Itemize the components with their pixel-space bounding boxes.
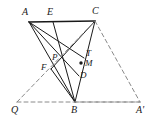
point-marker-M bbox=[79, 61, 82, 64]
vertex-label-a: A bbox=[22, 7, 28, 17]
segment-C-A-prime bbox=[95, 21, 140, 102]
vertex-label-q: Q bbox=[11, 105, 18, 115]
vertex-label-d: D bbox=[80, 71, 87, 80]
segment-A-C bbox=[29, 21, 95, 22]
vertex-label-b: B bbox=[71, 105, 77, 115]
geometry-figure: AECPTMFDQBA' bbox=[0, 0, 156, 135]
geometry-canvas bbox=[0, 0, 156, 135]
segments-layer bbox=[17, 21, 140, 102]
segment-E-B bbox=[53, 22, 75, 102]
vertex-label-a2: A' bbox=[136, 105, 144, 115]
vertex-label-m: M bbox=[85, 59, 93, 68]
vertex-label-e: E bbox=[47, 7, 53, 17]
vertex-label-p: P bbox=[52, 53, 58, 62]
vertex-label-c: C bbox=[92, 6, 99, 16]
segment-F-B bbox=[51, 69, 75, 102]
segment-A-B bbox=[29, 22, 75, 102]
markers-layer bbox=[79, 61, 82, 64]
vertex-label-f: F bbox=[41, 63, 47, 72]
segment-A-D bbox=[29, 22, 79, 76]
vertex-label-t: T bbox=[86, 49, 91, 58]
